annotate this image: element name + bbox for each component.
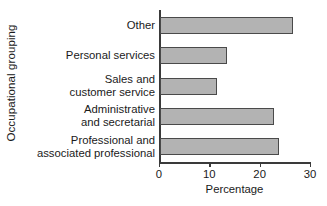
y-axis-title-text: Occupational grouping [5, 24, 17, 141]
bar [160, 47, 227, 64]
category-label: Administrative and secretarial [22, 103, 155, 129]
bar [160, 108, 274, 125]
x-axis-tick-label: 0 [144, 168, 174, 180]
category-label: Other [22, 19, 155, 32]
x-axis-tick-label: 20 [245, 168, 275, 180]
category-axis-labels: Professional and associated professional… [22, 0, 159, 163]
bar [160, 138, 279, 155]
x-axis: 0102030 [159, 162, 319, 164]
category-label: Personal services [22, 49, 155, 62]
x-axis-tick [260, 162, 261, 167]
x-axis-tick [310, 162, 311, 167]
plot-area [159, 10, 315, 163]
x-axis-line [159, 162, 310, 164]
bar [160, 78, 217, 95]
x-axis-tick-label: 30 [295, 168, 325, 180]
x-axis-tick [209, 162, 210, 167]
x-axis-tick-label: 10 [194, 168, 224, 180]
y-axis-title: Occupational grouping [0, 0, 22, 165]
bar [160, 17, 293, 34]
x-axis-title: Percentage [159, 183, 310, 195]
bar-chart: Occupational grouping Professional and a… [0, 0, 327, 206]
category-label: Sales and customer service [22, 73, 155, 99]
category-label: Professional and associated professional [22, 134, 155, 160]
x-axis-tick [159, 162, 160, 167]
